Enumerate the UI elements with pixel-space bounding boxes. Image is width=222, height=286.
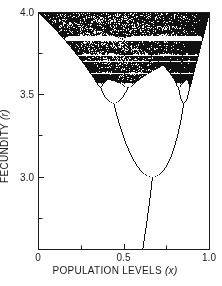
x-axis-title-text: POPULATION LEVELS	[52, 265, 161, 276]
y-axis-title-text: FECUNDITY	[0, 123, 10, 183]
y-tick-label: 3.5	[8, 89, 34, 100]
x-axis-title: POPULATION LEVELS (x)	[0, 265, 222, 277]
y-tick-label: 3.0	[8, 172, 34, 183]
y-axis-title: FECUNDITY (r)	[0, 76, 11, 216]
y-tick-label: 4.0	[8, 7, 34, 18]
y-axis-title-variable: (r)	[0, 109, 10, 120]
bifurcation-figure: 4.03.53.0 00.51.0 FECUNDITY (r) POPULATI…	[0, 0, 222, 286]
x-axis-title-variable: (x)	[165, 265, 178, 276]
x-tick-label: 0	[35, 252, 41, 263]
x-tick-label: 0.5	[117, 252, 131, 263]
x-tick-label: 1.0	[202, 252, 216, 263]
bifurcation-plot-canvas	[38, 12, 210, 250]
